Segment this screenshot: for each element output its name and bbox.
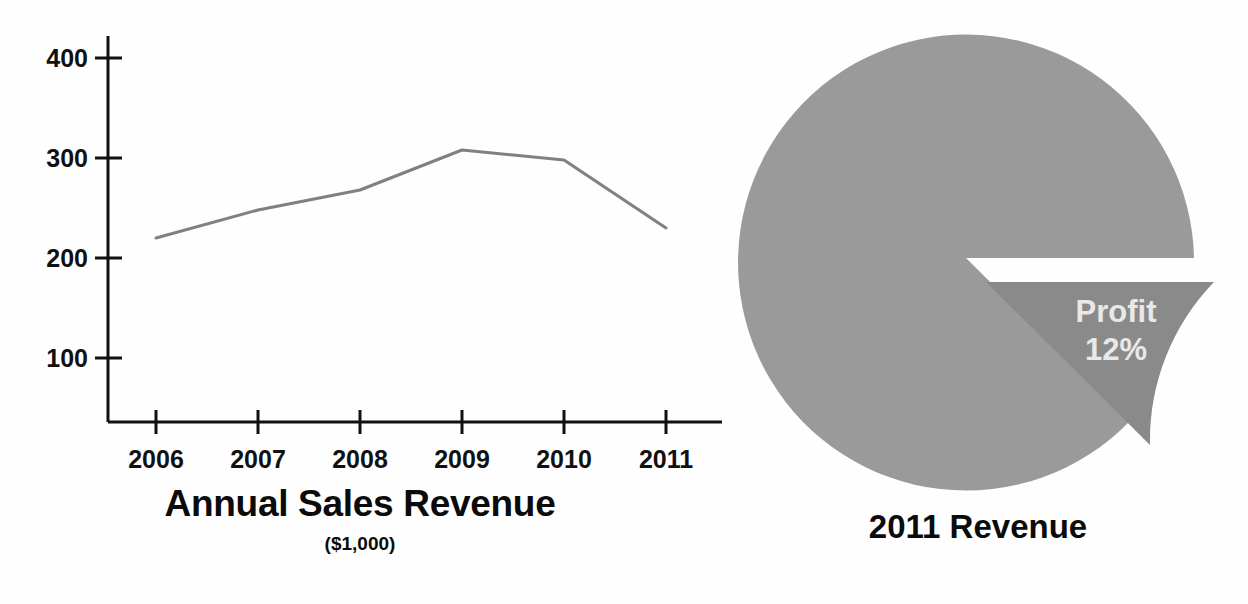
line-chart-title: Annual Sales Revenue xyxy=(0,483,720,525)
y-tick-label-200: 200 xyxy=(46,244,88,272)
y-tick-label-300: 300 xyxy=(46,144,88,172)
x-tick-label-2007: 2007 xyxy=(230,445,286,473)
line-chart-subtitle: ($1,000) xyxy=(0,533,720,555)
chart-canvas: 400 300 200 100 2006 2007 2008 2009 2010… xyxy=(0,0,1248,604)
x-tick-label-2009: 2009 xyxy=(434,445,490,473)
x-tick-label-2011: 2011 xyxy=(639,445,693,473)
pie-slice-profit-label-name: Profit xyxy=(1076,294,1157,329)
revenue-data-line xyxy=(156,150,666,238)
line-chart-panel: 400 300 200 100 2006 2007 2008 2009 2010… xyxy=(0,0,730,604)
pie-chart-panel: Profit 12% 2011 Revenue xyxy=(718,0,1248,604)
pie-chart-title: 2011 Revenue xyxy=(718,508,1238,546)
pie-slice-profit-label-value: 12% xyxy=(1085,332,1147,367)
line-chart-plot: 400 300 200 100 2006 2007 2008 2009 2010… xyxy=(0,0,730,480)
x-tick-label-2010: 2010 xyxy=(536,445,592,473)
x-tick-label-2008: 2008 xyxy=(332,445,388,473)
pie-slice-remainder[interactable] xyxy=(738,35,1194,491)
pie-chart-plot: Profit 12% xyxy=(718,0,1248,500)
x-tick-label-2006: 2006 xyxy=(128,445,184,473)
y-tick-label-400: 400 xyxy=(46,44,88,72)
y-tick-label-100: 100 xyxy=(46,344,88,372)
